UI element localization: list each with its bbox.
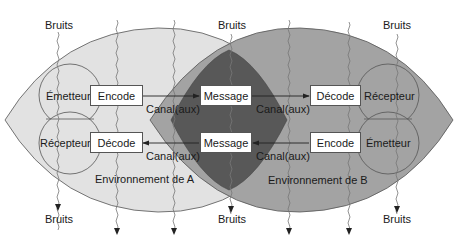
noise-label-bottom-right: Bruits <box>383 213 411 225</box>
channel-label-message-to-a: Canal(aux) <box>146 150 200 162</box>
message-top-box: Message <box>200 85 252 106</box>
sender-a-label: Émetteur <box>46 90 91 102</box>
sender-b-label: Émetteur <box>366 137 411 149</box>
environment-b-label: Environnement de B <box>268 174 368 186</box>
noise-label-bottom-left: Bruits <box>45 213 73 225</box>
environment-a-label: Environnement de A <box>95 173 194 185</box>
receiver-b-label: Récepteur <box>364 90 415 102</box>
communication-diagram: Bruits Bruits Bruits Bruits Bruits Bruit… <box>0 0 458 243</box>
channel-label-a-to-message: Canal(aux) <box>146 103 200 115</box>
noise-label-top-center: Bruits <box>218 19 246 31</box>
channel-label-b-to-message: Canal(aux) <box>256 150 310 162</box>
channel-label-message-to-b: Canal(aux) <box>256 103 310 115</box>
noise-label-top-left: Bruits <box>45 19 73 31</box>
message-bottom-box: Message <box>200 132 252 153</box>
encode-a-box: Encode <box>90 85 143 106</box>
encode-b-box: Encode <box>310 132 361 153</box>
noise-label-bottom-center: Bruits <box>218 213 246 225</box>
noise-label-top-right: Bruits <box>383 19 411 31</box>
decode-a-box: Décode <box>90 132 143 153</box>
receiver-a-label: Récepteur <box>40 137 91 149</box>
decode-b-box: Décode <box>310 85 361 106</box>
